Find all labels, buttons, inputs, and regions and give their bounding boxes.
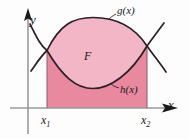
curve-label-h: h(x) — [120, 84, 138, 95]
diagram-canvas — [0, 0, 189, 139]
y-axis-label: y — [30, 13, 36, 26]
x1-subscript: 1 — [46, 120, 50, 129]
curve-label-g: g(x) — [117, 5, 135, 16]
region-label-f: F — [84, 50, 91, 62]
figure-area-between-curves: y x g(x) h(x) F x1 x2 — [0, 0, 189, 139]
x2-tick-label: x2 — [141, 114, 150, 130]
x-axis-label: x — [168, 98, 174, 111]
x1-tick-label: x1 — [41, 114, 50, 130]
x2-subscript: 2 — [146, 120, 150, 129]
